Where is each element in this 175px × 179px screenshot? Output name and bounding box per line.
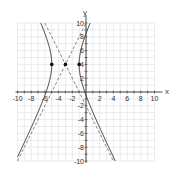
center-point [64, 63, 68, 67]
vertex-point [50, 63, 54, 67]
x-tick-label: 8 [139, 95, 143, 102]
y-tick-label: 10 [76, 20, 84, 27]
y-tick-label: -8 [78, 144, 84, 151]
y-tick-label: -2 [78, 102, 84, 109]
hyperbola-graph: -10-8-6-4-2246810-10-8-6-4-2246810 x y [0, 0, 175, 179]
y-axis-label: y [83, 8, 87, 17]
y-tick-label: -10 [74, 158, 84, 165]
x-tick-label: -8 [28, 95, 34, 102]
y-tick-label: -4 [78, 116, 84, 123]
x-tick-label: -10 [12, 95, 22, 102]
x-tick-label: 2 [98, 95, 102, 102]
vertex-point [77, 63, 81, 67]
x-tick-label: -2 [69, 95, 75, 102]
x-tick-label: -4 [55, 95, 61, 102]
left-branch [18, 23, 52, 157]
x-tick-label: 10 [151, 95, 159, 102]
x-tick-label: 4 [111, 95, 115, 102]
x-axis-label: x [165, 87, 169, 96]
axes [16, 15, 163, 163]
x-tick-label: 6 [125, 95, 129, 102]
y-tick-label: -6 [78, 130, 84, 137]
